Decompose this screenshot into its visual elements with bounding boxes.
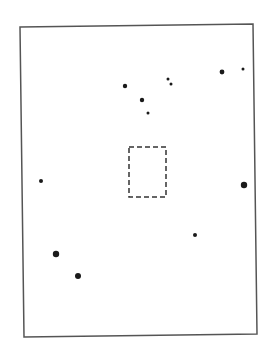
dot xyxy=(140,98,144,102)
dot xyxy=(39,179,43,183)
diagram-canvas xyxy=(0,0,274,351)
dot xyxy=(193,233,197,237)
dot xyxy=(123,84,127,88)
dot xyxy=(53,251,59,257)
dashed-selection-box xyxy=(129,147,166,197)
dot xyxy=(241,182,247,188)
dot xyxy=(167,78,170,81)
dot xyxy=(220,70,225,75)
dot xyxy=(75,273,81,279)
dot xyxy=(170,83,173,86)
dot-group xyxy=(39,68,247,280)
dot xyxy=(242,68,245,71)
dot xyxy=(147,112,150,115)
